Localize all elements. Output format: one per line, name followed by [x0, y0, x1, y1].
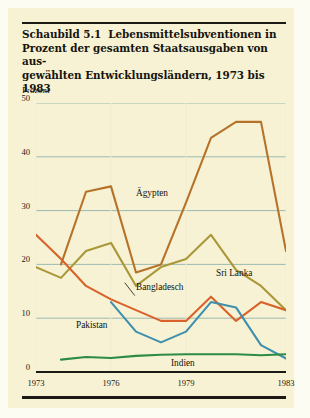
- series-label-sri-lanka: Sri Lanka: [216, 268, 252, 278]
- x-tick-label-1973: 1973: [19, 378, 53, 388]
- x-tick-label-1983: 1983: [269, 378, 303, 388]
- y-tick-label-40: 40: [14, 147, 30, 157]
- series-label-bangladesch: Bangladesch: [136, 282, 184, 292]
- series-label--gypten: Ägypten: [136, 188, 168, 198]
- y-tick-label-30: 30: [14, 201, 30, 211]
- series-label-indien: Indien: [171, 358, 195, 368]
- y-tick-label-50: 50: [14, 93, 30, 103]
- top-rule: [22, 22, 286, 24]
- figure-page: Schaubild 5.1Lebensmittelsubventionen in…: [0, 0, 310, 418]
- line-chart: [36, 103, 286, 372]
- leader-line-bangladesch: [125, 283, 135, 296]
- y-tick-label-0: 0: [14, 362, 30, 372]
- figure-title: Schaubild 5.1Lebensmittelsubventionen in…: [22, 28, 290, 96]
- x-tick-label-1979: 1979: [169, 378, 203, 388]
- bottom-rule: [22, 396, 286, 399]
- series-line--gypten: [61, 122, 286, 273]
- figure-number: Schaubild 5.1: [22, 28, 101, 40]
- y-tick-label-10: 10: [14, 308, 30, 318]
- figure-title-line-2: Prozent der gesamten Staatsausgaben von …: [22, 42, 268, 68]
- figure-title-line-1: Lebensmittelsubventionen in: [108, 28, 276, 40]
- y-tick-label-20: 20: [14, 254, 30, 264]
- chart-plot-area: [36, 103, 286, 372]
- series-label-pakistan: Pakistan: [76, 320, 108, 330]
- x-tick-label-1976: 1976: [94, 378, 128, 388]
- figure-title-line-3: gewählten Entwicklungsländern, 1973 bis …: [22, 69, 265, 95]
- x-axis-line: [36, 371, 286, 373]
